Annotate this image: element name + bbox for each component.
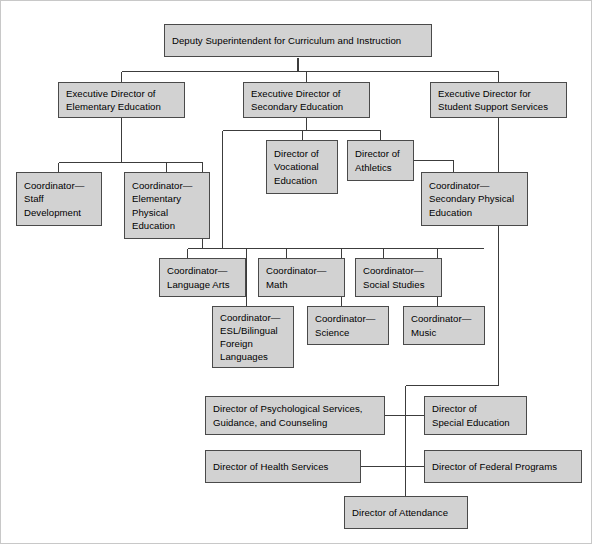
node-director-special-education[interactable]: Director of Special Education [424, 396, 527, 435]
node-coordinator-science[interactable]: Coordinator— Science [307, 306, 389, 345]
node-label: Coordinator— Elementary Physical Educati… [132, 179, 202, 232]
node-label: Executive Director of Secondary Educatio… [251, 87, 362, 113]
node-label: Director of Federal Programs [432, 460, 574, 473]
node-coordinator-esl-bilingual[interactable]: Coordinator— ESL/Bilingual Foreign Langu… [212, 306, 294, 368]
node-exec-director-elementary[interactable]: Executive Director of Elementary Educati… [58, 82, 185, 118]
node-exec-director-secondary[interactable]: Executive Director of Secondary Educatio… [243, 82, 370, 118]
node-label: Executive Director for Student Support S… [438, 87, 559, 113]
node-coordinator-language-arts[interactable]: Coordinator— Language Arts [159, 258, 246, 297]
node-label: Director of Health Services [213, 460, 353, 473]
node-coordinator-social-studies[interactable]: Coordinator— Social Studies [355, 258, 442, 297]
node-director-health-services[interactable]: Director of Health Services [205, 450, 361, 483]
org-chart-canvas: Deputy Superintendent for Curriculum and… [0, 0, 592, 544]
node-director-federal-programs[interactable]: Director of Federal Programs [424, 450, 582, 483]
node-director-athletics[interactable]: Director of Athletics [347, 140, 414, 181]
node-label: Coordinator— Language Arts [167, 264, 238, 290]
node-director-vocational-education[interactable]: Director of Vocational Education [266, 140, 338, 194]
node-label: Executive Director of Elementary Educati… [66, 87, 177, 113]
node-coordinator-elementary-physical-education[interactable]: Coordinator— Elementary Physical Educati… [124, 172, 210, 239]
node-label: Coordinator— Secondary Physical Educatio… [429, 179, 520, 219]
node-coordinator-secondary-physical-education[interactable]: Coordinator— Secondary Physical Educatio… [421, 172, 528, 226]
node-director-attendance[interactable]: Director of Attendance [344, 496, 468, 529]
edge-athletics-to-sec-pe [414, 161, 454, 173]
node-label: Director of Attendance [352, 506, 460, 519]
node-label: Coordinator— Staff Development [24, 179, 94, 219]
node-label: Director of Special Education [432, 402, 519, 428]
node-label: Coordinator— ESL/Bilingual Foreign Langu… [220, 311, 286, 364]
node-label: Director of Psychological Services, Guid… [213, 402, 377, 428]
node-coordinator-math[interactable]: Coordinator— Math [258, 258, 345, 297]
node-label: Coordinator— Music [411, 312, 477, 338]
node-label: Coordinator— Social Studies [363, 264, 434, 290]
node-coordinator-music[interactable]: Coordinator— Music [403, 306, 485, 345]
node-deputy-superintendent[interactable]: Deputy Superintendent for Curriculum and… [164, 24, 432, 57]
node-director-psychological-services[interactable]: Director of Psychological Services, Guid… [205, 396, 385, 435]
node-exec-director-student-support[interactable]: Executive Director for Student Support S… [430, 82, 567, 118]
node-label: Coordinator— Science [315, 312, 381, 338]
node-label: Director of Vocational Education [274, 147, 330, 187]
node-label: Director of Athletics [355, 147, 406, 173]
node-label: Coordinator— Math [266, 264, 337, 290]
node-label: Deputy Superintendent for Curriculum and… [172, 34, 424, 47]
node-coordinator-staff-development[interactable]: Coordinator— Staff Development [16, 172, 102, 226]
